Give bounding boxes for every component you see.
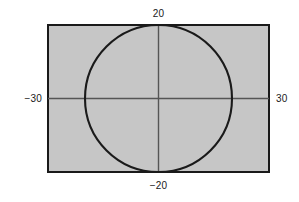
axis-label-top: 20: [10, 8, 299, 19]
axis-label-left: −30: [12, 93, 42, 104]
figure-container: 20 −20 −30 30: [0, 0, 298, 202]
plot-canvas: [0, 0, 298, 202]
axis-label-right: 30: [276, 93, 298, 104]
axis-label-bottom: −20: [10, 180, 299, 191]
